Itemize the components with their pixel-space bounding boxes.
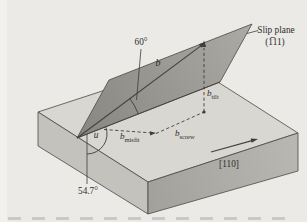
angle-54-label: 54.7° [78, 186, 98, 196]
angle-60-label: 60° [134, 37, 147, 47]
page-margin-strip [0, 0, 7, 222]
slip-plane-label: Slip plane [257, 25, 294, 35]
figure-canvas: Slip plane (1̅11) 60° b btilt bmisfit bs… [0, 0, 307, 222]
direction-110-label: [110] [219, 159, 239, 169]
line-direction-label: u [94, 130, 99, 140]
slip-plane-diagram: Slip plane (1̅11) 60° b btilt bmisfit bs… [0, 0, 307, 222]
burgers-vector-label: b [156, 57, 161, 68]
cropped-caption-fragment [8, 217, 295, 220]
slip-plane-miller-indices: (1̅11) [265, 37, 284, 48]
